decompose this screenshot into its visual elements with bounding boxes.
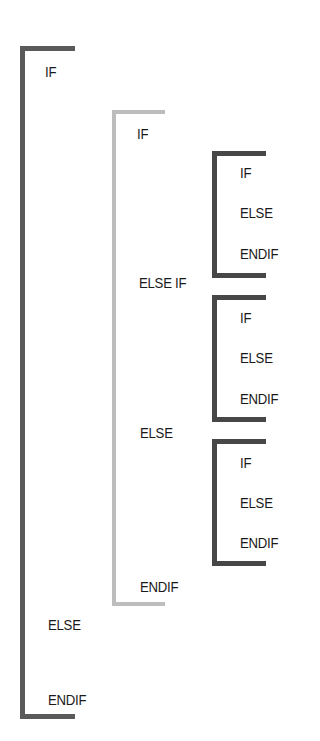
inner-1-if-label: IF [240,164,251,181]
inner-1-else-label: ELSE [240,204,273,221]
inner-2-if-label: IF [240,309,251,326]
inner-2-endif-label: ENDIF [240,390,278,407]
outer-endif-label: ENDIF [48,691,86,708]
inner-1-endif-label: ENDIF [240,245,278,262]
inner-2-else-label: ELSE [240,349,273,366]
inner-3-if-label: IF [240,454,251,471]
inner-3-else-label: ELSE [240,494,273,511]
middle-if-label: IF [137,125,148,142]
middle-endif-label: ENDIF [140,578,178,595]
middle-else-label: ELSE [140,424,173,441]
inner-3-endif-label: ENDIF [240,534,278,551]
middle-if-bracket [112,110,165,606]
outer-if-label: IF [45,63,56,80]
middle-else-if-label: ELSE IF [139,274,186,291]
outer-else-label: ELSE [48,616,81,633]
